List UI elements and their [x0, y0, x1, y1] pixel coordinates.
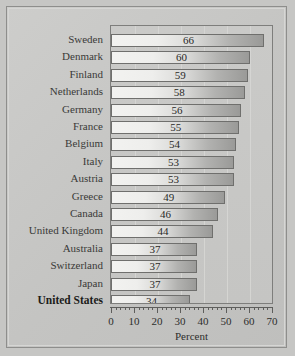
bar-row: 53	[111, 173, 273, 186]
minor-tick	[175, 307, 176, 310]
minor-tick	[148, 307, 149, 310]
bar-row: 55	[111, 121, 273, 134]
major-tick	[180, 307, 181, 313]
category-label-italy: Italy	[0, 155, 106, 168]
bar-row: 66	[111, 34, 273, 47]
bar-row: 37	[111, 260, 273, 273]
minor-tick	[129, 307, 130, 310]
bar-row: 56	[111, 104, 273, 117]
bar-rows: 66605958565554535349464437373734	[111, 26, 272, 303]
bar-value-label: 55	[112, 121, 240, 134]
bar-australia: 37	[111, 243, 197, 256]
bar-row: 60	[111, 51, 273, 64]
bar-united-states: 34	[111, 295, 190, 304]
minor-tick	[125, 307, 126, 310]
bar-sweden: 66	[111, 34, 264, 47]
minor-tick	[143, 307, 144, 310]
minor-tick	[235, 307, 236, 310]
category-label-japan: Japan	[0, 277, 106, 290]
x-axis	[110, 307, 273, 315]
tick-label-0: 0	[99, 315, 123, 327]
major-tick	[203, 307, 204, 313]
minor-tick	[212, 307, 213, 310]
minor-tick	[258, 307, 259, 310]
bar-value-label: 54	[112, 138, 237, 151]
tick-label-60: 60	[237, 315, 261, 327]
bar-value-label: 37	[112, 278, 198, 291]
bar-value-label: 37	[112, 243, 198, 256]
x-axis-title: Percent	[110, 330, 273, 342]
tick-label-10: 10	[122, 315, 146, 327]
tick-label-40: 40	[191, 315, 215, 327]
bar-belgium: 54	[111, 138, 236, 151]
major-tick	[226, 307, 227, 313]
bar-row: 44	[111, 225, 273, 238]
bar-row: 49	[111, 191, 273, 204]
bar-value-label: 60	[112, 51, 251, 64]
bar-netherlands: 58	[111, 86, 245, 99]
bar-row: 59	[111, 69, 273, 82]
bar-austria: 53	[111, 173, 234, 186]
bar-value-label: 66	[112, 34, 265, 47]
minor-tick	[198, 307, 199, 310]
category-label-united-states: United States	[0, 294, 106, 307]
minor-tick	[189, 307, 190, 310]
major-tick	[111, 307, 112, 313]
minor-tick	[240, 307, 241, 310]
category-label-canada: Canada	[0, 207, 106, 220]
minor-tick	[185, 307, 186, 310]
minor-tick	[244, 307, 245, 310]
minor-tick	[152, 307, 153, 310]
minor-tick	[263, 307, 264, 310]
category-label-france: France	[0, 120, 106, 133]
minor-tick	[162, 307, 163, 310]
tick-label-50: 50	[214, 315, 238, 327]
major-tick	[272, 307, 273, 313]
bar-value-label: 34	[112, 295, 191, 304]
minor-tick	[267, 307, 268, 310]
category-label-finland: Finland	[0, 68, 106, 81]
category-label-germany: Germany	[0, 103, 106, 116]
category-label-netherlands: Netherlands	[0, 85, 106, 98]
minor-tick	[217, 307, 218, 310]
bar-united-kingdom: 44	[111, 225, 213, 238]
minor-tick	[231, 307, 232, 310]
bar-greece: 49	[111, 191, 225, 204]
minor-tick	[208, 307, 209, 310]
bar-row: 37	[111, 278, 273, 291]
bar-value-label: 53	[112, 173, 235, 186]
bar-value-label: 56	[112, 104, 242, 117]
bar-row: 46	[111, 208, 273, 221]
bar-value-label: 59	[112, 69, 249, 82]
plot-area: 66605958565554535349464437373734	[110, 25, 273, 304]
bar-row: 54	[111, 138, 273, 151]
tick-label-70: 70	[260, 315, 284, 327]
bar-row: 53	[111, 156, 273, 169]
bar-value-label: 58	[112, 86, 246, 99]
major-tick	[134, 307, 135, 313]
bar-row: 58	[111, 86, 273, 99]
bar-japan: 37	[111, 278, 197, 291]
category-label-united-kingdom: United Kingdom	[0, 224, 106, 237]
minor-tick	[221, 307, 222, 310]
major-tick	[249, 307, 250, 313]
tick-label-30: 30	[168, 315, 192, 327]
bar-canada: 46	[111, 208, 218, 221]
category-label-switzerland: Switzerland	[0, 259, 106, 272]
bar-row: 37	[111, 243, 273, 256]
category-label-belgium: Belgium	[0, 137, 106, 150]
bar-value-label: 44	[112, 225, 214, 238]
category-label-sweden: Sweden	[0, 33, 106, 46]
minor-tick	[120, 307, 121, 310]
minor-tick	[139, 307, 140, 310]
category-label-denmark: Denmark	[0, 50, 106, 63]
x-axis-tick-labels: 010203040506070	[110, 315, 273, 329]
bar-value-label: 37	[112, 260, 198, 273]
bar-value-label: 49	[112, 191, 226, 204]
bar-row: 34	[111, 295, 273, 304]
bar-denmark: 60	[111, 51, 250, 64]
bar-germany: 56	[111, 104, 241, 117]
category-label-greece: Greece	[0, 190, 106, 203]
bar-france: 55	[111, 121, 239, 134]
minor-tick	[166, 307, 167, 310]
